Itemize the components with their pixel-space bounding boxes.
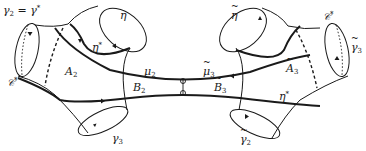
label-eta-star-left: η* xyxy=(92,42,102,53)
label-mu3-tilde: μ3 xyxy=(203,66,215,79)
arrow-gamma3 xyxy=(93,124,97,128)
left-boundary-dotted xyxy=(22,25,28,75)
lower-eta-star-curve xyxy=(18,78,320,106)
right-dashed-separator xyxy=(296,30,317,88)
gamma2-tilde-ellipse xyxy=(226,104,283,145)
left-dashed-separator xyxy=(45,28,63,86)
label-B2: B2 xyxy=(133,82,146,95)
label-c-star-left: 𝒞* xyxy=(7,77,18,88)
arrow-lower xyxy=(101,99,105,104)
surface-diagram: γ2 = γ* η η* 𝒞* A2 μ2 B2 γ3 η 𝒞* γ3 A3 μ… xyxy=(0,0,366,151)
label-gamma2-eq-gamma-star: γ2 = γ* xyxy=(3,5,40,18)
gamma3-ellipse xyxy=(74,101,131,142)
arrow-gamma2 xyxy=(28,32,33,36)
right-boundary-dotted xyxy=(336,25,342,75)
label-gamma3-tilde: γ3 xyxy=(351,42,362,55)
arrow-gamma2-tilde xyxy=(245,114,249,119)
label-gamma2-tilde: γ2 xyxy=(240,134,251,147)
arrow-eta-tilde xyxy=(258,16,262,20)
label-mu2: μ2 xyxy=(144,66,156,79)
gluing-symbol xyxy=(181,79,186,96)
arrow-mu xyxy=(230,74,234,79)
diagram-drawing xyxy=(0,0,366,151)
label-eta-tilde: η xyxy=(231,10,238,21)
label-gamma3: γ3 xyxy=(112,133,123,146)
arrow-gamma3-tilde xyxy=(335,56,340,60)
label-eta: η xyxy=(120,10,127,21)
arrow-eta-star xyxy=(78,39,82,43)
label-A2: A2 xyxy=(65,66,77,79)
label-A3-tilde: A3 xyxy=(286,63,298,76)
left-upper-outline xyxy=(35,24,68,26)
label-eta-star-right: η* xyxy=(279,91,289,102)
label-B3-tilde: B3 xyxy=(214,82,227,95)
label-c-star-right: 𝒞* xyxy=(323,11,334,22)
